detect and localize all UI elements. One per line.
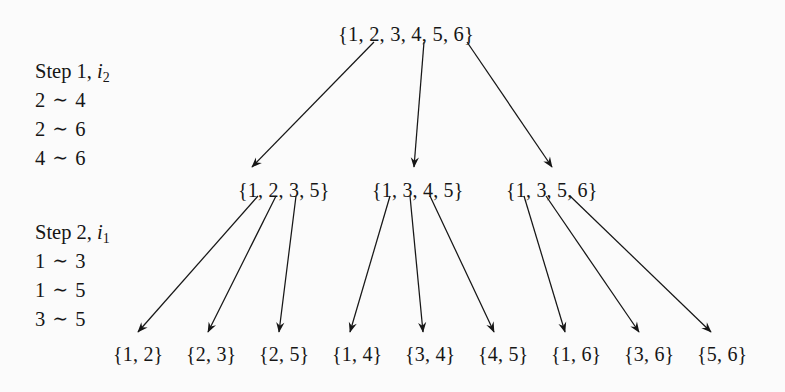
step-2-relation-0: 1∼3 (35, 247, 110, 276)
relation-right: 5 (75, 308, 85, 330)
relation-symbol: ∼ (52, 277, 68, 304)
tree-arrow-level2-to-leaf (524, 196, 565, 332)
step-2-title-text: Step 2, (35, 221, 97, 243)
tree-arrow-level2-to-leaf (350, 196, 390, 332)
tree-arrow-root-to-level2 (467, 42, 552, 167)
step-1-relation-1: 2∼6 (35, 115, 110, 144)
step-1-index-letter: i (97, 60, 103, 82)
step-2-index-sub: 1 (103, 231, 110, 246)
relation-right: 5 (75, 279, 85, 301)
tree-arrow-level2-to-leaf (570, 196, 711, 332)
relation-right: 6 (75, 147, 85, 169)
tree-node-leaf: {3, 6} (624, 344, 674, 364)
step-2-relation-1: 1∼5 (35, 276, 110, 305)
step-1-block: Step 1, i2 2∼4 2∼6 4∼6 (35, 57, 110, 173)
tree-node-leaf: {1, 2} (113, 344, 163, 364)
tree-node-leaf: {5, 6} (697, 344, 747, 364)
relation-right: 4 (75, 89, 85, 111)
tree-node-leaf: {3, 4} (405, 344, 455, 364)
step-2-title: Step 2, i1 (35, 218, 110, 247)
tree-arrow-level2-to-leaf (546, 196, 639, 332)
set-partition-tree-diagram: Step 1, i2 2∼4 2∼6 4∼6 Step 2, i1 1∼3 1∼… (0, 0, 785, 392)
tree-node-root: {1, 2, 3, 4, 5, 6} (338, 24, 474, 45)
relation-left: 2 (35, 89, 45, 111)
tree-node-level2: {1, 3, 4, 5} (372, 180, 464, 200)
step-1-index: i2 (97, 60, 110, 82)
step-2-relation-2: 3∼5 (35, 305, 110, 334)
tree-arrow-level2-to-leaf (279, 196, 296, 332)
tree-node-leaf: {1, 6} (551, 344, 601, 364)
tree-arrow-level2-to-leaf (430, 196, 494, 332)
relation-left: 3 (35, 308, 45, 330)
tree-node-leaf: {4, 5} (478, 344, 528, 364)
relation-left: 2 (35, 118, 45, 140)
tree-node-level2: {1, 3, 5, 6} (506, 180, 598, 200)
tree-arrow-root-to-level2 (252, 42, 374, 167)
edges-level2-to-level3 (138, 196, 711, 332)
tree-arrow-level2-to-leaf (410, 196, 423, 332)
relation-left: 1 (35, 279, 45, 301)
relation-symbol: ∼ (52, 248, 68, 275)
tree-node-leaf: {1, 4} (332, 344, 382, 364)
relation-symbol: ∼ (52, 116, 68, 143)
relation-symbol: ∼ (52, 145, 68, 172)
relation-right: 3 (75, 250, 85, 272)
step-1-title-text: Step 1, (35, 60, 97, 82)
edges-root-to-level2 (252, 42, 552, 167)
step-2-index-letter: i (97, 221, 103, 243)
relation-symbol: ∼ (52, 306, 68, 333)
tree-node-level2: {1, 2, 3, 5} (238, 180, 330, 200)
step-2-block: Step 2, i1 1∼3 1∼5 3∼5 (35, 218, 110, 334)
step-2-index: i1 (97, 221, 110, 243)
step-1-title: Step 1, i2 (35, 57, 110, 86)
tree-arrow-level2-to-leaf (208, 196, 276, 332)
relation-left: 4 (35, 147, 45, 169)
relation-right: 6 (75, 118, 85, 140)
tree-node-leaf: {2, 5} (259, 344, 309, 364)
tree-arrow-level2-to-leaf (138, 196, 258, 332)
tree-arrow-root-to-level2 (414, 42, 424, 167)
relation-symbol: ∼ (52, 87, 68, 114)
step-1-relation-2: 4∼6 (35, 144, 110, 173)
tree-node-leaf: {2, 3} (186, 344, 236, 364)
step-1-index-sub: 2 (103, 70, 110, 85)
step-1-relation-0: 2∼4 (35, 86, 110, 115)
relation-left: 1 (35, 250, 45, 272)
